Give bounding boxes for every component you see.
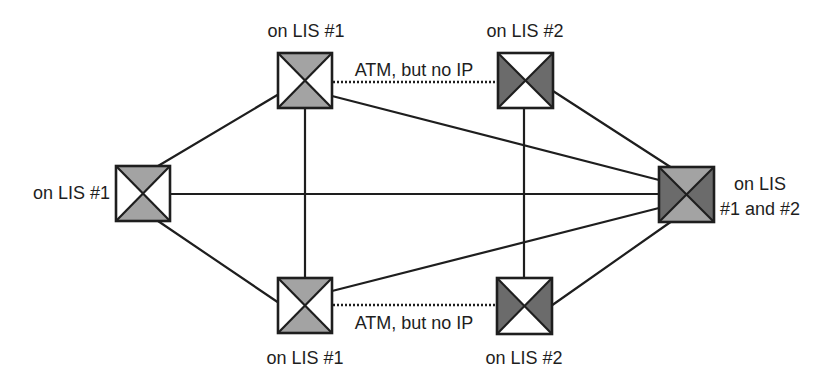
label-switch-right-line1: on LIS (734, 174, 786, 194)
label-dotted-link-top: ATM, but no IP (355, 60, 474, 80)
lis-atm-network-diagram: on LIS #1 on LIS #1 on LIS #2 on LIS #1 … (0, 0, 837, 391)
label-switch-right-line2: #1 and #2 (720, 199, 800, 219)
link-left-to-top-left (158, 94, 279, 166)
links (158, 82, 672, 306)
switch-top-right (498, 53, 553, 108)
switch-right (659, 167, 714, 222)
link-bottom-right-to-right (551, 221, 672, 306)
link-top-left-to-right (332, 96, 659, 180)
link-left-to-bottom-left (158, 221, 279, 303)
switch-bottom-right (497, 278, 552, 334)
label-switch-top-left: on LIS #1 (267, 21, 344, 41)
switch-left (116, 166, 170, 221)
switch-bottom-left (278, 278, 332, 333)
label-switch-bottom-right: on LIS #2 (485, 348, 562, 368)
switch-top-left (278, 53, 332, 108)
label-dotted-link-bottom: ATM, but no IP (355, 313, 474, 333)
label-switch-left: on LIS #1 (33, 183, 110, 203)
label-switch-top-right: on LIS #2 (486, 21, 563, 41)
link-bottom-left-to-right (332, 208, 659, 291)
label-switch-bottom-left: on LIS #1 (266, 348, 343, 368)
